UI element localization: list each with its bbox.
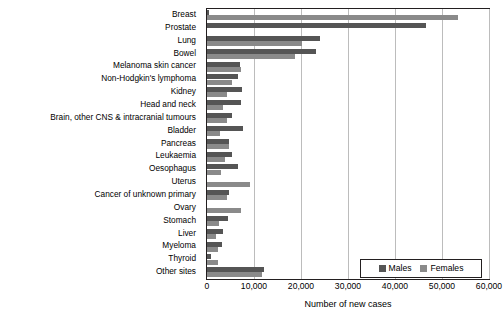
bar-group: [207, 9, 489, 22]
category-label: Head and neck: [140, 100, 196, 108]
x-tick-label: 60,000: [476, 281, 502, 291]
category-label: Kidney: [171, 87, 196, 95]
category-label: Oesophagus: [149, 164, 196, 172]
bar-females: [207, 80, 232, 85]
bar-group: [207, 112, 489, 125]
bar-group: [207, 73, 489, 86]
x-tick-label: 40,000: [382, 281, 408, 291]
category-label: Liver: [178, 229, 196, 237]
bar-group: [207, 60, 489, 73]
legend-label: Males: [389, 264, 412, 273]
bar-group: [207, 48, 489, 61]
category-label: Myeloma: [162, 241, 196, 249]
bar-females: [207, 118, 227, 123]
category-label: Brain, other CNS & intracranial tumours: [50, 113, 196, 121]
bar-females: [207, 131, 220, 136]
bar-females: [207, 170, 221, 175]
category-axis-labels: BreastProstateLungBowelMelanoma skin can…: [0, 8, 200, 280]
category-label: Melanoma skin cancer: [113, 61, 196, 69]
bar-group: [207, 176, 489, 189]
x-axis-tick-labels: 010,00020,00030,00040,00050,00060,000: [0, 281, 504, 295]
x-tick-label: 30,000: [335, 281, 361, 291]
bar-group: [207, 99, 489, 112]
category-label: Bowel: [173, 49, 196, 57]
category-label: Bladder: [167, 126, 196, 134]
bar-females: [207, 92, 227, 97]
x-tick-label: 20,000: [288, 281, 314, 291]
legend-item: Females: [420, 264, 463, 273]
bar-chart: BreastProstateLungBowelMelanoma skin can…: [0, 0, 504, 321]
category-label: Ovary: [174, 203, 196, 211]
bar-females: [207, 272, 262, 277]
bar-group: [207, 125, 489, 138]
category-label: Prostate: [165, 23, 196, 31]
category-label: Leukaemia: [155, 151, 196, 159]
legend-label: Females: [430, 264, 463, 273]
x-tick-label: 0: [205, 281, 210, 291]
bar-group: [207, 189, 489, 202]
bar-females: [207, 208, 241, 213]
bar-females: [207, 67, 241, 72]
bar-group: [207, 215, 489, 228]
x-tick-label: 10,000: [241, 281, 267, 291]
x-axis-title: Number of new cases: [206, 299, 490, 309]
bar-group: [207, 86, 489, 99]
bar-group: [207, 150, 489, 163]
bar-females: [207, 260, 218, 265]
category-label: Stomach: [163, 216, 196, 224]
bar-females: [207, 54, 295, 59]
category-label: Pancreas: [161, 139, 196, 147]
category-label: Non-Hodgkin's lymphoma: [101, 74, 196, 82]
gridline: [489, 9, 490, 279]
bar-females: [207, 144, 229, 149]
category-label: Breast: [172, 10, 196, 18]
bar-group: [207, 138, 489, 151]
bar-females: [207, 234, 216, 239]
category-label: Other sites: [156, 267, 196, 275]
bar-group: [207, 35, 489, 48]
bar-females: [207, 157, 225, 162]
category-label: Thyroid: [168, 254, 196, 262]
bar-group: [207, 240, 489, 253]
bar-group: [207, 22, 489, 35]
category-label: Uterus: [172, 177, 196, 185]
bar-females: [207, 41, 302, 46]
bar-females: [207, 195, 227, 200]
legend-swatch-icon: [379, 265, 386, 272]
bar-females: [207, 221, 219, 226]
bar-group: [207, 202, 489, 215]
bar-females: [207, 105, 223, 110]
bar-females: [207, 247, 218, 252]
bar-group: [207, 228, 489, 241]
category-label: Lung: [178, 36, 196, 44]
bar-females: [207, 182, 250, 187]
legend-swatch-icon: [420, 265, 427, 272]
x-tick-label: 50,000: [429, 281, 455, 291]
bar-males: [207, 23, 426, 28]
category-label: Cancer of unknown primary: [95, 190, 196, 198]
bar-females: [207, 15, 458, 20]
plot-area: [206, 8, 490, 280]
bar-group: [207, 163, 489, 176]
legend-item: Males: [379, 264, 412, 273]
chart-legend: MalesFemales: [360, 259, 482, 278]
